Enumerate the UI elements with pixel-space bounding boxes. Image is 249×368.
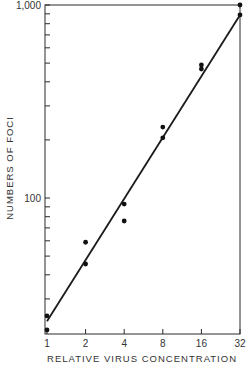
y-tick-label-1000: 1,000 [16,0,41,11]
data-point [238,3,243,8]
x-tick-label: 1 [44,338,50,349]
data-point [122,202,127,207]
data-point [160,125,165,130]
data-point [160,135,165,140]
x-axis-labels: 12481632 [44,338,246,349]
x-tick-label: 4 [121,338,127,349]
data-point [238,13,243,18]
data-point [83,262,88,267]
x-tick-label: 8 [160,338,166,349]
data-point [199,67,204,72]
x-tick-label: 16 [196,338,208,349]
data-point [45,313,50,318]
x-axis-ticks [47,329,240,334]
y-axis-ticks [45,5,50,299]
data-point [45,328,50,333]
y-axis-title: NUMBERS OF FOCI [4,116,15,220]
data-point [122,219,127,224]
y-tick-label-100: 100 [24,193,41,204]
x-tick-label: 32 [234,338,246,349]
data-point [83,240,88,245]
y-axis-labels: 1,000 100 [16,0,41,204]
foci-chart: 1,000 100 NUMBERS OF FOCI 12481632 RELAT… [0,0,249,368]
x-tick-label: 2 [83,338,89,349]
x-axis-title: RELATIVE VIRUS CONCENTRATION [47,353,237,364]
fitted-line [47,15,240,321]
